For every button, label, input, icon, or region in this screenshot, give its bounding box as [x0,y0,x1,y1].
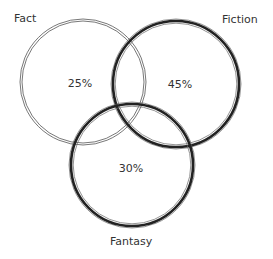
fact-label: Fact [14,12,36,25]
fantasy-percentage: 30% [119,162,143,175]
venn-diagram [0,0,273,259]
fact-percentage: 25% [68,77,92,90]
fiction-label: Fiction [222,13,258,26]
fantasy-label: Fantasy [110,235,152,248]
fiction-percentage: 45% [168,78,192,91]
